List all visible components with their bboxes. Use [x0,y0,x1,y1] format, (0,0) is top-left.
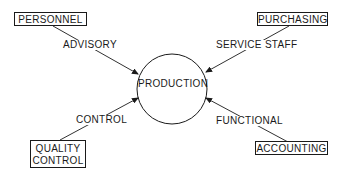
personnel-box: PERSONNEL [14,12,87,26]
quality-control-line2: CONTROL [31,155,85,167]
production-circle [137,54,207,124]
control-label: CONTROL [76,115,127,125]
advisory-label: ADVISORY [63,40,117,50]
service-staff-label: SERVICE STAFF [216,40,297,50]
purchasing-box: PURCHASING [257,12,328,26]
quality-control-box: QUALITY CONTROL [30,140,86,168]
advisory-arrow [53,26,138,74]
functional-label: FUNCTIONAL [216,116,283,126]
production-label: PRODUCTION [138,79,208,89]
accounting-box: ACCOUNTING [255,141,328,155]
quality-control-line1: QUALITY [31,143,85,155]
